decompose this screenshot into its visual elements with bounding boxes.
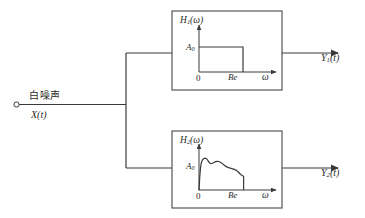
h1-a0-subscript: 0 (192, 46, 195, 52)
diagram-svg (0, 0, 365, 218)
h2-y-axis-tick-label: A0 (186, 162, 195, 171)
h1-transfer-label: H1(ω) (180, 16, 203, 26)
output-label-y1: Y1(t) (321, 53, 339, 64)
output-label-y2: Y2(t) (321, 168, 339, 179)
h1-cutoff-tick-label: Be (228, 73, 238, 82)
h1-y-axis-tick-label: A0 (186, 43, 195, 52)
h2-base: H (180, 135, 187, 145)
input-signal-arg: (t) (37, 109, 46, 120)
input-terminal-icon (14, 102, 19, 107)
output-y2-arg: (t) (330, 167, 339, 178)
h2-origin-tick-label: 0 (196, 192, 201, 201)
h2-arg: (ω) (190, 135, 203, 145)
output-y1-arg: (t) (330, 52, 339, 63)
h2-a0-subscript: 0 (192, 165, 195, 171)
h1-origin-tick-label: 0 (196, 74, 201, 83)
h2-transfer-label: H2(ω) (180, 136, 203, 146)
figure-canvas: 白噪声 X(t) Y1(t) Y2(t) H1(ω) A0 0 Be ω H2(… (0, 0, 365, 218)
input-label-white-noise: 白噪声 (29, 91, 61, 101)
h1-base: H (180, 15, 187, 25)
h1-arg: (ω) (190, 15, 203, 25)
h1-x-axis-label: ω (262, 73, 269, 83)
h2-cutoff-tick-label: Be (228, 191, 238, 200)
input-label-signal: X(t) (31, 110, 47, 120)
h2-x-axis-label: ω (262, 191, 269, 201)
